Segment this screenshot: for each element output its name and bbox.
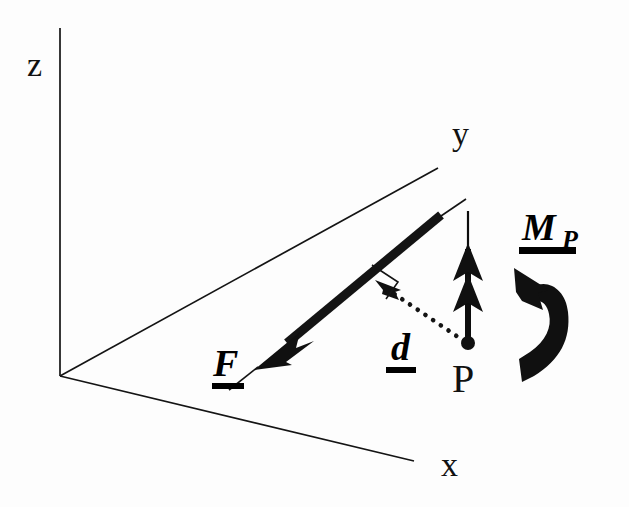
- moment-diagram-canvas: z y x F d: [0, 0, 629, 507]
- distance-label-underbar: [386, 367, 416, 373]
- y-axis-label: y: [452, 115, 469, 152]
- x-axis-label: x: [441, 446, 458, 483]
- curved-arrow-head: [514, 268, 549, 310]
- distance-label-group: d: [386, 326, 416, 373]
- force-arrowhead: [254, 332, 314, 370]
- point-P-label: P: [452, 356, 474, 401]
- moment-label: M: [521, 206, 557, 248]
- force-shaft: [287, 215, 441, 343]
- force-label: F: [212, 342, 238, 384]
- distance-label: d: [391, 326, 411, 368]
- curved-moment-arrow: [514, 268, 568, 382]
- moment-vector-MP: [453, 211, 483, 350]
- z-axis-label: z: [27, 46, 42, 83]
- axis-group: [60, 28, 438, 461]
- force-line-of-action-upper: [441, 199, 466, 216]
- force-label-underbar: [212, 383, 244, 389]
- moment-label-underbar: [519, 247, 576, 254]
- moment-label-group: M P: [519, 206, 579, 254]
- mechanics-diagram: z y x F d: [0, 0, 629, 507]
- moment-vector-base-dot: [461, 336, 475, 350]
- moment-arm-d: [372, 265, 464, 341]
- force-vector-F: [229, 199, 466, 390]
